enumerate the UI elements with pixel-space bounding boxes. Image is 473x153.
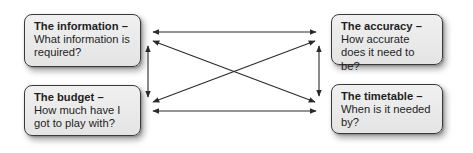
node-question: How much have I got to play with? [34, 104, 132, 130]
node-accuracy: The accuracy – How accurate does it need… [331, 14, 443, 65]
node-timetable: The timetable – When is it needed by? [331, 84, 443, 134]
node-question: How accurate does it need to be? [341, 33, 434, 73]
node-title: The budget – [34, 91, 132, 104]
node-title: The timetable – [341, 90, 434, 103]
node-budget: The budget – How much have I got to play… [24, 85, 141, 136]
node-question: What information is required? [34, 33, 132, 59]
relationship-diagram: The information – What information is re… [0, 0, 473, 153]
node-question: When is it needed by? [341, 103, 434, 129]
node-title: The information – [34, 20, 132, 33]
node-information: The information – What information is re… [24, 14, 141, 67]
node-title: The accuracy – [341, 20, 434, 33]
